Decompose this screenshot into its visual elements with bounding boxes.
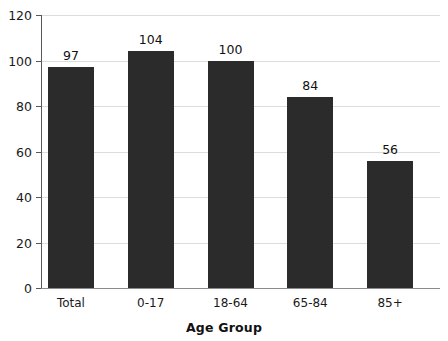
bar-value-label: 84 — [287, 78, 333, 93]
bar[interactable] — [208, 61, 254, 289]
x-tick-label: Total — [28, 296, 114, 310]
x-tick-label: 0-17 — [108, 296, 194, 310]
bar-group: 97 — [48, 15, 94, 288]
x-tick-label: 85+ — [347, 296, 433, 310]
y-tick-mark — [36, 288, 41, 289]
bar-value-label: 100 — [208, 42, 254, 57]
y-tick-mark — [36, 15, 41, 16]
bar[interactable] — [128, 51, 174, 288]
x-axis-title: Age Group — [0, 320, 448, 335]
y-tick-label: 0 — [0, 281, 32, 296]
y-tick-label: 100 — [0, 53, 32, 68]
bar-group: 56 — [367, 15, 413, 288]
y-tick-mark — [36, 197, 41, 198]
bar-group: 100 — [208, 15, 254, 288]
bar-value-label: 56 — [367, 142, 413, 157]
bar-value-label: 104 — [128, 32, 174, 47]
x-axis-line — [41, 288, 440, 289]
bar-group: 104 — [128, 15, 174, 288]
bar-chart: 971041008456 020406080100120 Total0-1718… — [0, 0, 448, 341]
bar-value-label: 97 — [48, 48, 94, 63]
y-axis-line — [41, 15, 42, 289]
y-tick-label: 120 — [0, 8, 32, 23]
y-tick-label: 20 — [0, 235, 32, 250]
plot-area: 971041008456 — [41, 15, 440, 288]
y-tick-mark — [36, 106, 41, 107]
bars-layer: 971041008456 — [41, 15, 440, 288]
y-tick-mark — [36, 152, 41, 153]
bar-group: 84 — [287, 15, 333, 288]
x-tick-label: 18-64 — [188, 296, 274, 310]
y-tick-label: 60 — [0, 144, 32, 159]
y-tick-mark — [36, 61, 41, 62]
bar[interactable] — [287, 97, 333, 288]
bar[interactable] — [367, 161, 413, 288]
bar[interactable] — [48, 67, 94, 288]
y-tick-mark — [36, 243, 41, 244]
x-tick-label: 65-84 — [267, 296, 353, 310]
y-tick-label: 80 — [0, 99, 32, 114]
y-tick-label: 40 — [0, 190, 32, 205]
